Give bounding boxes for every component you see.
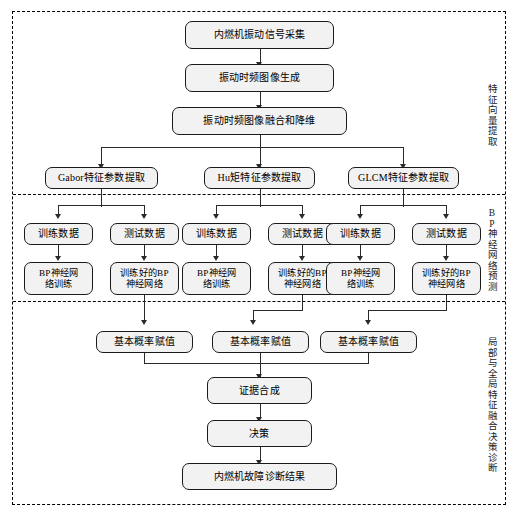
node-test-data-3[interactable]: 测试数据 bbox=[412, 223, 481, 245]
arrowhead-bptrained2 bbox=[299, 256, 305, 261]
node-result[interactable]: 内燃机故障诊断结果 bbox=[182, 463, 337, 490]
node-fuse-reduce[interactable]: 振动时频图像融合和降维 bbox=[172, 107, 347, 135]
node-glcm-extraction[interactable]: GLCM特征参数提取 bbox=[348, 167, 459, 189]
section-label-feature-extraction: 特征向量提取 bbox=[486, 60, 497, 170]
connector-bptrained2-elbow bbox=[253, 310, 303, 311]
arrowhead-bpa1 bbox=[141, 320, 147, 325]
connector-bptrained1-to-bpa1 bbox=[144, 295, 145, 323]
arrowhead-test3 bbox=[443, 214, 449, 219]
arrowhead-train1 bbox=[55, 214, 61, 219]
arrowhead-test1 bbox=[141, 214, 147, 219]
connector-bptrained3-stem bbox=[446, 295, 447, 311]
section-label-fusion-decision: 局部与全局特征融合决策诊断 bbox=[486, 325, 497, 485]
node-gabor-extraction[interactable]: Gabor特征参数提取 bbox=[45, 167, 158, 189]
flowchart-canvas: 特征向量提取 BP神经网络预测 局部与全局特征融合决策诊断 bbox=[0, 0, 521, 517]
arrowhead-bpa3 bbox=[365, 320, 371, 325]
node-evidence-synthesis[interactable]: 证据合成 bbox=[207, 377, 312, 404]
arrowhead-bptrained3 bbox=[443, 256, 449, 261]
node-decision[interactable]: 决策 bbox=[207, 420, 312, 447]
arrowhead-bptrain3 bbox=[357, 256, 363, 261]
node-bpa-1[interactable]: 基本概率赋值 bbox=[96, 331, 193, 353]
arrowhead-bptrained1 bbox=[141, 256, 147, 261]
node-hu-extraction[interactable]: Hu矩特征参数提取 bbox=[204, 167, 315, 189]
node-bpa-3[interactable]: 基本概率赋值 bbox=[320, 331, 417, 353]
node-train-data-2[interactable]: 训练数据 bbox=[182, 223, 251, 245]
connector-hu-bus bbox=[216, 205, 303, 206]
node-bp-train-3[interactable]: BP神经网 络训练 bbox=[326, 262, 395, 295]
section-label-bp-prediction: BP神经网络预测 bbox=[486, 205, 497, 295]
connector-fuse-bus bbox=[101, 147, 404, 148]
connector-fuse-stem bbox=[260, 135, 261, 167]
node-bp-trained-1[interactable]: 训练好的BP 神经网络 bbox=[110, 262, 179, 295]
arrowhead-bptrain2 bbox=[213, 256, 219, 261]
arrowhead-train2 bbox=[213, 214, 219, 219]
node-acquire[interactable]: 内燃机振动信号采集 bbox=[185, 21, 334, 49]
node-test-data-1[interactable]: 测试数据 bbox=[110, 223, 179, 245]
connector-glcm-bus bbox=[360, 205, 447, 206]
connector-bptrained3-elbow bbox=[368, 310, 447, 311]
node-train-data-1[interactable]: 训练数据 bbox=[24, 223, 93, 245]
connector-bpa-merge-bus bbox=[144, 363, 369, 364]
connector-gabor-bus bbox=[58, 205, 145, 206]
node-train-data-3[interactable]: 训练数据 bbox=[326, 223, 395, 245]
arrowhead-test2 bbox=[299, 214, 305, 219]
node-bp-train-2[interactable]: BP神经网 络训练 bbox=[182, 262, 251, 295]
arrowhead-bptrain1 bbox=[55, 256, 61, 261]
node-tf-image[interactable]: 振动时频图像生成 bbox=[185, 64, 334, 92]
node-bpa-2[interactable]: 基本概率赋值 bbox=[212, 331, 309, 353]
section-divider-2 bbox=[13, 301, 505, 302]
arrowhead-bpa2 bbox=[250, 320, 256, 325]
node-bp-trained-3[interactable]: 训练好的BP 神经网络 bbox=[412, 262, 481, 295]
node-bp-train-1[interactable]: BP神经网 络训练 bbox=[24, 262, 93, 295]
arrowhead-train3 bbox=[357, 214, 363, 219]
connector-bptrained2-stem bbox=[302, 295, 303, 311]
